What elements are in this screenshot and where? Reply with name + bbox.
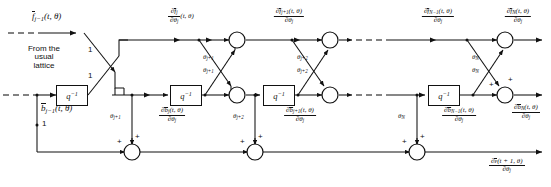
- from-usual-lattice-text: From the usual lattice: [8, 45, 80, 70]
- cross-down-to-rail: [115, 72, 124, 88]
- backward-label-db-N: ∂bN(t, θ) ∂θj: [512, 104, 540, 120]
- output-label-de: ∂ε(t + 1, θ) ∂θj: [489, 158, 525, 174]
- q-delay-block-3: q−1: [263, 85, 295, 106]
- frac-df-N1: ∂fN−1(t, θ) ∂θj: [422, 8, 454, 24]
- plus-sign-e2-left: +: [240, 138, 245, 146]
- theta-label-N-lower: θN: [472, 67, 479, 75]
- f-bar-symbol: f: [510, 8, 512, 15]
- theta-label-j1-lower: θj+1: [203, 67, 214, 75]
- frac-db-N: ∂bN(t, θ) ∂θj: [512, 104, 540, 120]
- sum-junction-e3: [409, 144, 425, 160]
- gain-label-bottom: 1: [42, 120, 46, 128]
- plus-sign-bN-top: +: [508, 76, 513, 84]
- b-bar-symbol: b: [165, 107, 169, 114]
- gain-label-mid: 1: [88, 72, 92, 80]
- sum-junction-b1: [229, 87, 245, 103]
- plus-sign-e2-top: +: [258, 133, 263, 141]
- theta-label-j2-lower: θj+2: [297, 67, 308, 75]
- f-bar-symbol: f: [174, 8, 176, 15]
- gain-label-top: 1: [88, 46, 92, 54]
- plus-sign-e1-top: +: [135, 133, 140, 141]
- sum-junction-f1: [229, 32, 245, 48]
- backward-label-db-j1: ∂bj+1(t, θ) ∂θj: [284, 107, 316, 123]
- figure-canvas: q−1 q−1 q−1 q−1 fj−1(t, θ) From the usua…: [0, 0, 551, 187]
- cross-bottom-up: [88, 56, 119, 95]
- forward-label-df-j: ∂fj ∂θj (t, θ): [168, 8, 194, 24]
- sum-junction-fN: [497, 32, 513, 48]
- q-delay-label-3: q−1: [273, 91, 284, 101]
- backward-label-db-N1: ∂bN−1(t, θ) ∂θj: [442, 107, 476, 123]
- frac-df-j: ∂fj ∂θj: [168, 8, 180, 24]
- f-bar-symbol: f: [427, 8, 429, 15]
- input-label-b: bj−1(t, θ): [41, 104, 72, 114]
- f-bar-symbol: f: [279, 8, 281, 15]
- b-bar-symbol: b: [448, 107, 452, 114]
- q-delay-label-1: q−1: [66, 91, 77, 101]
- frac-db-j: ∂bj(t, θ) ∂θj: [159, 107, 185, 123]
- input-label-f: fj−1(t, θ): [32, 12, 61, 22]
- theta-label-j1-vertical: θj+1: [110, 113, 121, 121]
- frac-de: ∂ε(t + 1, θ) ∂θj: [489, 158, 525, 174]
- forward-label-df-N: ∂fN(t, θ) ∂θj: [505, 8, 531, 24]
- plus-sign-e3-left: +: [402, 138, 407, 146]
- node-dot: [36, 124, 39, 127]
- sum-junction-bN: [497, 87, 513, 103]
- theta-label-N-upper: θN: [472, 54, 479, 62]
- forward-label-df-N1: ∂fN−1(t, θ) ∂θj: [422, 8, 454, 24]
- q-delay-block-4: q−1: [428, 85, 460, 106]
- plus-sign-e3-top: +: [420, 133, 425, 141]
- forward-label-df-j1: ∂fj+1(t, θ) ∂θj: [274, 8, 304, 24]
- from-line-3: lattice: [8, 62, 80, 70]
- epsilon-bar-symbol: ε: [494, 158, 497, 165]
- theta-label-j2-upper: θj+2: [297, 54, 308, 62]
- theta-label-j1-upper: θj+1: [203, 54, 214, 62]
- sum-junction-e1: [124, 144, 140, 160]
- sum-junction-e2: [247, 144, 263, 160]
- q-delay-label-4: q−1: [438, 91, 449, 101]
- frac-df-j1: ∂fj+1(t, θ) ∂θj: [274, 8, 304, 24]
- f-bar-symbol: f: [32, 12, 35, 21]
- theta-label-N-vertical: θN: [398, 113, 405, 121]
- sum-junction-f2: [322, 32, 338, 48]
- frac-db-N1: ∂bN−1(t, θ) ∂θj: [442, 107, 476, 123]
- sum-junction-b2: [322, 87, 338, 103]
- cross-up-to-rail: [119, 40, 127, 56]
- plus-sign-e1-left: +: [117, 138, 122, 146]
- b-bar-symbol: b: [290, 107, 294, 114]
- plus-sign-bN-left: +: [489, 81, 494, 89]
- q-delay-block-2: q−1: [170, 85, 202, 106]
- b-bar-symbol: b: [517, 104, 521, 111]
- b-bar-symbol: b: [41, 104, 46, 113]
- frac-df-N: ∂fN(t, θ) ∂θj: [505, 8, 531, 24]
- backward-label-db-j: ∂bj(t, θ) ∂θj: [159, 107, 185, 123]
- q-delay-label-2: q−1: [180, 91, 191, 101]
- theta-label-j2-vertical: θj+2: [233, 113, 244, 121]
- frac-db-j1: ∂bj+1(t, θ) ∂θj: [284, 107, 316, 123]
